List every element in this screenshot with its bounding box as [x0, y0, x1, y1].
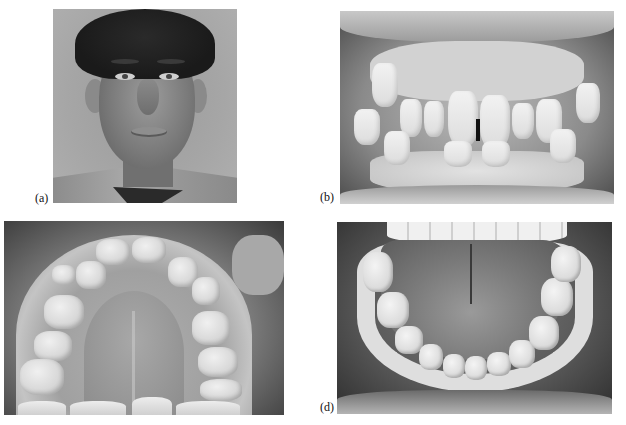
lower-lip	[337, 390, 612, 414]
lower-front-teeth	[176, 401, 240, 415]
molar	[529, 316, 559, 350]
mouth	[131, 127, 167, 137]
upper-lip	[340, 11, 614, 43]
tooth	[132, 237, 166, 263]
molar	[541, 278, 573, 316]
upper-central-incisor	[448, 91, 478, 147]
molar	[20, 359, 64, 395]
tooth	[96, 239, 130, 265]
molar	[44, 295, 84, 329]
tooth	[512, 103, 534, 139]
molar	[551, 246, 581, 282]
tooth	[424, 101, 444, 137]
tooth	[419, 344, 443, 370]
hair	[75, 9, 215, 79]
panel-a-portrait-photo	[53, 9, 237, 203]
lower-lip	[340, 185, 614, 204]
panel-d-lower-arch-photo	[337, 222, 612, 414]
tooth	[372, 63, 398, 107]
tooth	[482, 141, 510, 167]
molar	[377, 292, 409, 328]
tooth	[550, 129, 576, 163]
cheek-retractor	[232, 235, 284, 295]
left-eye	[115, 73, 135, 80]
lower-front-teeth	[18, 401, 66, 415]
panel-d-label: (d)	[320, 401, 334, 413]
left-eyebrow	[111, 59, 139, 64]
tooth	[384, 131, 410, 165]
lower-front-teeth	[70, 401, 126, 415]
panel-b-frontal-teeth-photo	[340, 11, 614, 204]
tooth	[52, 265, 76, 285]
upper-gum	[370, 41, 584, 101]
panel-c-upper-arch-photo	[4, 221, 284, 415]
midline-diastema	[476, 119, 480, 141]
right-eyebrow	[157, 59, 185, 64]
tooth	[76, 261, 106, 289]
lower-front-teeth	[132, 397, 172, 415]
panel-a-label: (a)	[35, 192, 48, 204]
molar	[192, 311, 230, 345]
tooth	[465, 356, 487, 380]
tooth	[444, 141, 472, 167]
tooth	[487, 352, 511, 376]
tooth	[192, 277, 220, 305]
panel-b-label: (b)	[320, 191, 334, 203]
tooth	[576, 83, 600, 123]
molar	[198, 347, 238, 377]
molar-with-filling	[200, 379, 242, 401]
tooth	[443, 354, 465, 378]
nose	[137, 79, 159, 115]
tooth	[354, 109, 380, 145]
molar	[363, 252, 393, 292]
right-eye	[159, 73, 179, 80]
molar	[34, 331, 72, 361]
